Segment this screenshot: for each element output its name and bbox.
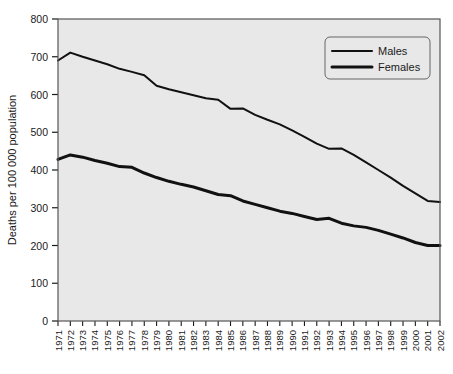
y-tick-label: 200: [30, 240, 48, 252]
x-tick-label: 1995: [348, 330, 359, 351]
x-tick-label: 1999: [398, 330, 409, 351]
x-tick-label: 1991: [299, 330, 310, 351]
x-tick-label: 1974: [89, 330, 100, 351]
x-tick-label: 1985: [225, 330, 236, 351]
y-tick-label: 400: [30, 164, 48, 176]
x-tick-label: 1994: [336, 330, 347, 351]
x-tick-label: 1990: [287, 330, 298, 351]
x-tick-label: 1979: [151, 330, 162, 351]
y-axis-ticks: 0100200300400500600700800: [30, 13, 58, 327]
y-tick-label: 100: [30, 277, 48, 289]
x-tick-label: 1988: [262, 330, 273, 351]
y-tick-label: 700: [30, 51, 48, 63]
x-tick-label: 2000: [410, 330, 421, 351]
x-tick-label: 1978: [139, 330, 150, 351]
x-tick-label: 1982: [188, 330, 199, 351]
x-tick-label: 1996: [361, 330, 372, 351]
x-tick-label: 1972: [65, 330, 76, 351]
chart-container: Deaths per 100 000 population 0100200300…: [0, 0, 453, 374]
x-tick-label: 1998: [385, 330, 396, 351]
x-tick-label: 1971: [53, 330, 64, 351]
line-chart: Deaths per 100 000 population 0100200300…: [0, 0, 453, 374]
x-tick-label: 1973: [77, 330, 88, 351]
legend-label-females: Females: [378, 61, 421, 73]
x-tick-label: 1997: [373, 330, 384, 351]
x-axis-ticks: 1971197219731974197519761977197819791980…: [53, 321, 446, 351]
x-tick-label: 1989: [274, 330, 285, 351]
legend-label-males: Males: [378, 45, 408, 57]
y-tick-label: 300: [30, 202, 48, 214]
x-tick-label: 1975: [102, 330, 113, 351]
x-tick-label: 2001: [422, 330, 433, 351]
y-tick-label: 600: [30, 89, 48, 101]
x-tick-label: 1987: [250, 330, 261, 351]
x-tick-label: 1986: [237, 330, 248, 351]
x-tick-label: 1992: [311, 330, 322, 351]
x-tick-label: 1981: [176, 330, 187, 351]
x-tick-label: 2002: [435, 330, 446, 351]
x-tick-label: 1983: [200, 330, 211, 351]
x-tick-label: 1976: [114, 330, 125, 351]
x-tick-label: 1993: [324, 330, 335, 351]
y-tick-label: 500: [30, 126, 48, 138]
y-tick-label: 800: [30, 13, 48, 25]
x-tick-label: 1984: [213, 330, 224, 351]
x-tick-label: 1977: [126, 330, 137, 351]
y-axis-label: Deaths per 100 000 population: [6, 95, 18, 245]
chart-legend: Males Females: [325, 37, 430, 79]
y-tick-label: 0: [42, 315, 48, 327]
x-tick-label: 1980: [163, 330, 174, 351]
